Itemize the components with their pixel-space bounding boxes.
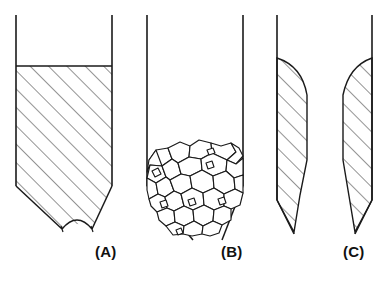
panel-b-granular-fill <box>147 140 243 236</box>
figure-container: (A) (B) (C) <box>0 0 390 281</box>
panel-label-b: (B) <box>221 243 242 260</box>
panel-b <box>147 15 243 240</box>
panel-c-right-film <box>338 50 386 240</box>
panel-c <box>270 15 386 240</box>
panel-a-fill <box>10 60 120 240</box>
tube-diagram <box>0 0 390 281</box>
panel-label-c: (C) <box>343 243 364 260</box>
panel-a <box>10 15 120 240</box>
panel-label-a: (A) <box>95 243 116 260</box>
